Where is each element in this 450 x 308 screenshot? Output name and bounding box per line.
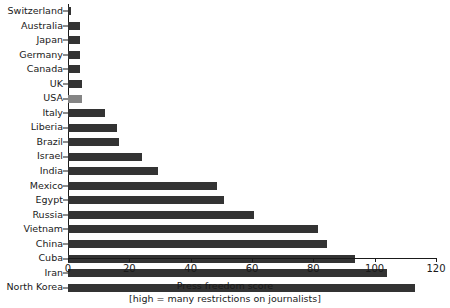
bar-row bbox=[68, 179, 436, 194]
bar-row bbox=[68, 106, 436, 121]
x-axis-tick-label: 120 bbox=[426, 263, 445, 274]
bar-row bbox=[68, 222, 436, 237]
bar-row bbox=[68, 77, 436, 92]
bar-row bbox=[68, 48, 436, 63]
bar-row bbox=[68, 149, 436, 164]
x-axis-tick-line bbox=[68, 258, 69, 262]
y-axis-label: China bbox=[0, 237, 63, 252]
x-axis-tick-line bbox=[191, 258, 192, 262]
y-axis-label: USA bbox=[0, 91, 63, 106]
bar bbox=[68, 153, 142, 161]
x-axis-tick-line bbox=[252, 258, 253, 262]
bar bbox=[68, 138, 119, 146]
y-axis-label: India bbox=[0, 164, 63, 179]
bar bbox=[68, 196, 224, 204]
x-axis-tick-line bbox=[129, 258, 130, 262]
bar bbox=[68, 7, 71, 15]
bar-row bbox=[68, 237, 436, 252]
bar-row bbox=[68, 19, 436, 34]
y-axis-label: Brazil bbox=[0, 135, 63, 150]
bar bbox=[68, 51, 80, 59]
x-axis-tick-label: 20 bbox=[123, 263, 136, 274]
bar bbox=[68, 240, 327, 248]
bar bbox=[68, 36, 80, 44]
x-axis-tick-line bbox=[436, 258, 437, 262]
y-axis-label: Canada bbox=[0, 62, 63, 77]
plot-area bbox=[68, 4, 436, 258]
bar bbox=[68, 80, 82, 88]
x-axis-tick-label: 80 bbox=[307, 263, 320, 274]
bar bbox=[68, 182, 217, 190]
x-axis-subtitle: [high = many restrictions on journalists… bbox=[0, 293, 450, 306]
x-axis-caption: Press freedom score [high = many restric… bbox=[0, 280, 450, 305]
bar bbox=[68, 109, 105, 117]
y-axis-label: Liberia bbox=[0, 120, 63, 135]
bar-row bbox=[68, 91, 436, 106]
bar bbox=[68, 167, 158, 175]
y-axis-label: Switzerland bbox=[0, 4, 63, 19]
bar bbox=[68, 124, 117, 132]
x-axis-tick-label: 0 bbox=[65, 263, 71, 274]
y-axis-label: Australia bbox=[0, 19, 63, 34]
y-axis-label: Cuba bbox=[0, 251, 63, 266]
bar bbox=[68, 22, 80, 30]
y-axis-label: Russia bbox=[0, 208, 63, 223]
x-axis-tick-label: 40 bbox=[184, 263, 197, 274]
x-axis-tick-line bbox=[375, 258, 376, 262]
bar-row bbox=[68, 33, 436, 48]
bar-row bbox=[68, 4, 436, 19]
x-axis-tick-line bbox=[313, 258, 314, 262]
y-axis-label: Japan bbox=[0, 33, 63, 48]
y-axis-label: Egypt bbox=[0, 193, 63, 208]
bar bbox=[68, 65, 80, 73]
x-axis-tick-label: 100 bbox=[365, 263, 384, 274]
y-axis-label: Iran bbox=[0, 266, 63, 281]
bar-row bbox=[68, 120, 436, 135]
bar-row bbox=[68, 164, 436, 179]
y-axis-label: Israel bbox=[0, 149, 63, 164]
bar-row bbox=[68, 135, 436, 150]
bar-row bbox=[68, 193, 436, 208]
bar bbox=[68, 95, 82, 103]
y-axis-label: Germany bbox=[0, 48, 63, 63]
x-axis-tick-label: 60 bbox=[246, 263, 259, 274]
bar-row bbox=[68, 208, 436, 223]
y-axis-label: Italy bbox=[0, 106, 63, 121]
bar bbox=[68, 211, 254, 219]
y-axis-category-labels: SwitzerlandAustraliaJapanGermanyCanadaUK… bbox=[0, 4, 63, 258]
x-axis-ticks: 020406080100120 bbox=[68, 258, 436, 282]
y-axis-label: Vietnam bbox=[0, 222, 63, 237]
y-axis-label: Mexico bbox=[0, 179, 63, 194]
bar-row bbox=[68, 62, 436, 77]
y-axis-label: UK bbox=[0, 77, 63, 92]
bar bbox=[68, 225, 318, 233]
press-freedom-bar-chart: SwitzerlandAustraliaJapanGermanyCanadaUK… bbox=[0, 0, 450, 308]
x-axis-title: Press freedom score bbox=[0, 280, 450, 293]
